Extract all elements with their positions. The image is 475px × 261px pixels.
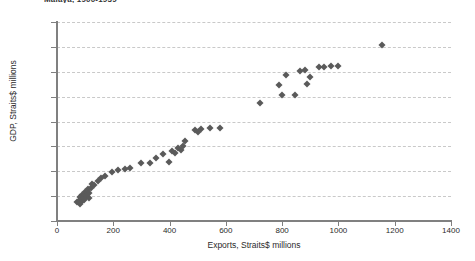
y-tick-mark: [51, 122, 56, 123]
x-tick-label: 1000: [330, 227, 348, 235]
scatter-point: [335, 63, 342, 70]
scatter-point: [114, 167, 121, 174]
scatter-point: [276, 82, 283, 89]
gridline-horizontal: [57, 22, 451, 23]
scatter-point: [307, 74, 314, 81]
gridline-horizontal: [57, 47, 451, 48]
scatter-point: [291, 92, 298, 99]
scatter-point: [207, 125, 214, 132]
y-tick-mark: [51, 146, 56, 147]
x-tick-label: 0: [55, 227, 59, 235]
x-tick-label: 1400: [442, 227, 460, 235]
y-tick-mark: [51, 221, 56, 222]
scatter-point: [146, 159, 153, 166]
scatter-point: [320, 63, 327, 70]
x-tick-label: 1200: [386, 227, 404, 235]
gridline-horizontal: [57, 97, 451, 98]
gridline-horizontal: [57, 122, 451, 123]
y-axis-title: GDP, Straits$ millions: [8, 41, 18, 161]
chart-title: Malaya, 1900-1939: [44, 0, 117, 3]
y-tick-mark: [51, 196, 56, 197]
x-tick-label: 800: [275, 227, 288, 235]
scatter-chart-figure: Malaya, 1900-1939 GDP, Straits$ millions…: [0, 0, 475, 261]
y-tick-mark: [51, 47, 56, 48]
x-tick-label: 200: [107, 227, 120, 235]
plot-area: [57, 22, 451, 221]
gridline-horizontal: [57, 72, 451, 73]
x-axis-title: Exports, Straits$ millions: [57, 240, 451, 250]
y-tick-mark: [51, 97, 56, 98]
scatter-point: [282, 72, 289, 79]
x-tick-label: 600: [219, 227, 232, 235]
y-axis-line: [56, 21, 58, 222]
scatter-point: [160, 150, 167, 157]
scatter-point: [216, 124, 223, 131]
scatter-point: [279, 92, 286, 99]
x-axis-line: [56, 220, 452, 222]
gridline-horizontal: [57, 196, 451, 197]
scatter-point: [138, 159, 145, 166]
y-tick-mark: [51, 171, 56, 172]
scatter-point: [257, 100, 264, 107]
y-tick-mark: [51, 22, 56, 23]
scatter-point: [304, 81, 311, 88]
y-tick-mark: [51, 72, 56, 73]
scatter-point: [153, 155, 160, 162]
gridline-horizontal: [57, 146, 451, 147]
x-tick-label: 400: [163, 227, 176, 235]
scatter-point: [165, 158, 172, 165]
